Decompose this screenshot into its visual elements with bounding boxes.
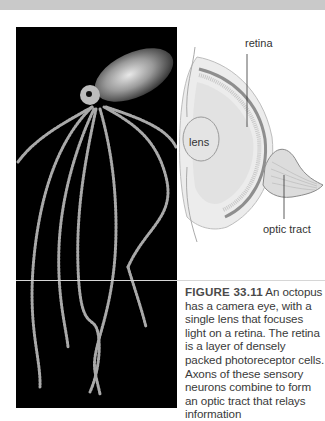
octopus-mantle [87, 37, 177, 112]
retina-label: retina [245, 37, 273, 49]
page-divider [16, 280, 325, 281]
figure-caption-text: An octopus has a camera eye, with a sing… [185, 285, 324, 420]
page-top-strip [0, 0, 325, 10]
lens-label: lens [189, 136, 209, 148]
eye-diagram [177, 27, 325, 277]
octopus-illustration [16, 27, 177, 408]
camera-eye-illustration [177, 27, 325, 277]
octopus-arms [18, 107, 176, 394]
octopus-photo [16, 27, 177, 408]
optic-tract-label: optic tract [263, 223, 311, 235]
figure-caption: FIGURE 33.11 An octopus has a camera eye… [185, 285, 325, 421]
octopus-eye [86, 91, 92, 97]
figure-number: FIGURE 33.11 [185, 285, 263, 298]
